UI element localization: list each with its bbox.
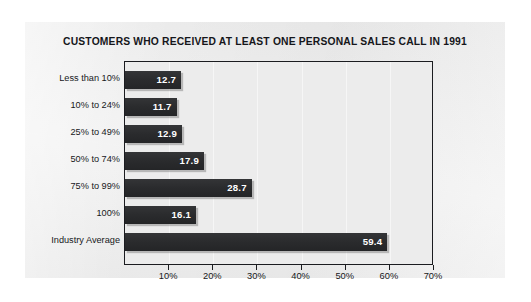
bar-value-label: 17.9 [180, 156, 199, 166]
x-axis-tick [433, 265, 434, 270]
x-axis-tick-label: 10% [159, 272, 178, 281]
x-axis: 10%20%30%40%50%60%70% [124, 265, 433, 291]
x-axis-tick-label: 30% [247, 272, 266, 281]
bar-row: 12.7 [125, 71, 434, 89]
category-label: 25% to 49% [12, 128, 120, 137]
bar[interactable]: 12.9 [125, 125, 182, 143]
bar-value-label: 11.7 [153, 102, 172, 112]
bar-row: 28.7 [125, 179, 434, 197]
category-label: 100% [12, 209, 120, 218]
x-axis-tick [389, 265, 390, 270]
bar[interactable]: 11.7 [125, 98, 177, 116]
bar-value-label: 12.9 [157, 129, 176, 139]
bar[interactable]: 17.9 [125, 152, 204, 170]
chart-figure: CUSTOMERS WHO RECEIVED AT LEAST ONE PERS… [0, 0, 531, 302]
category-label: Less than 10% [12, 74, 120, 83]
category-label: 75% to 99% [12, 182, 120, 191]
x-axis-tick [212, 265, 213, 270]
category-label: Industry Average [12, 236, 120, 245]
x-axis-tick-label: 70% [424, 272, 443, 281]
plot-area: 12.711.712.917.928.716.159.4 [124, 61, 433, 265]
x-axis-tick-label: 20% [203, 272, 222, 281]
x-axis-tick [168, 265, 169, 270]
bar-row: 16.1 [125, 206, 434, 224]
bar[interactable]: 16.1 [125, 206, 196, 224]
x-axis-tick [301, 265, 302, 270]
x-axis-tick [256, 265, 257, 270]
category-label: 10% to 24% [12, 101, 120, 110]
bar-row: 11.7 [125, 98, 434, 116]
chart-title: CUSTOMERS WHO RECEIVED AT LEAST ONE PERS… [25, 36, 505, 47]
x-axis-tick-label: 50% [335, 272, 354, 281]
bar-value-label: 12.7 [157, 75, 176, 85]
y-axis-category-labels: Less than 10%10% to 24%25% to 49%50% to … [10, 61, 120, 265]
x-axis-tick [345, 265, 346, 270]
bar-row: 17.9 [125, 152, 434, 170]
bar-value-label: 16.1 [172, 210, 191, 220]
category-label: 50% to 74% [12, 155, 120, 164]
bar-row: 12.9 [125, 125, 434, 143]
bar[interactable]: 28.7 [125, 179, 252, 197]
x-axis-tick-label: 60% [380, 272, 399, 281]
bar[interactable]: 12.7 [125, 71, 181, 89]
x-axis-tick-label: 40% [291, 272, 310, 281]
bar-value-label: 59.4 [363, 237, 382, 247]
bar-value-label: 28.7 [227, 183, 246, 193]
plot-inner: 12.711.712.917.928.716.159.4 [125, 62, 432, 264]
bar[interactable]: 59.4 [125, 233, 387, 251]
bar-row: 59.4 [125, 233, 434, 251]
